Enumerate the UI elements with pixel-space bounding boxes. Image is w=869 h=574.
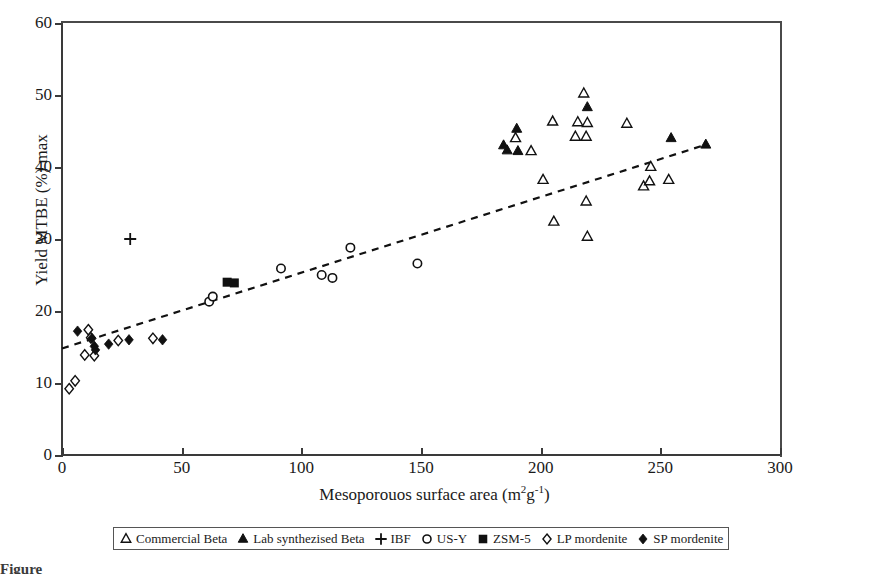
legend-item-us-y[interactable]: US-Y bbox=[420, 532, 467, 546]
data-point bbox=[346, 243, 354, 251]
legend-label: SP mordenite bbox=[653, 532, 723, 545]
y-tick-40 bbox=[55, 167, 62, 169]
y-axis-title: Yield MTBE (%) max bbox=[32, 80, 52, 340]
data-point bbox=[328, 274, 336, 282]
y-tick-0 bbox=[55, 455, 62, 457]
x-axis-title-exp-mass: -1 bbox=[535, 483, 544, 495]
data-point bbox=[413, 259, 421, 267]
data-point bbox=[80, 350, 89, 360]
data-point bbox=[622, 118, 632, 127]
y-tick-50 bbox=[55, 95, 62, 97]
legend-label: ZSM-5 bbox=[493, 532, 531, 545]
x-axis-title: Mesoporouos surface area (m2g-1) bbox=[0, 483, 869, 505]
data-point bbox=[149, 333, 158, 343]
data-point bbox=[582, 118, 592, 127]
data-point bbox=[549, 216, 559, 225]
x-axis-title-mid: g bbox=[526, 485, 535, 504]
data-markers-layer bbox=[62, 23, 780, 455]
data-point bbox=[570, 131, 580, 140]
plot-right-border bbox=[780, 21, 782, 457]
data-point bbox=[158, 335, 167, 345]
y-tick-60 bbox=[55, 23, 62, 25]
x-tick-label-150: 150 bbox=[396, 459, 446, 476]
data-point bbox=[666, 133, 676, 142]
x-axis-title-main: Mesoporouos surface area (m bbox=[319, 485, 521, 504]
plot-area bbox=[62, 23, 780, 455]
legend-label: IBF bbox=[391, 532, 411, 545]
data-point bbox=[582, 102, 592, 111]
legend-label: US-Y bbox=[437, 532, 467, 545]
data-point bbox=[71, 376, 80, 386]
x-tick-label-250: 250 bbox=[635, 459, 685, 476]
legend-marker-open-circle-icon bbox=[420, 532, 434, 546]
legend-marker-filled-diamond-icon bbox=[636, 532, 650, 546]
legend-item-ibf[interactable]: IBF bbox=[374, 532, 411, 546]
series-zsm-5 bbox=[223, 278, 239, 288]
data-point bbox=[645, 176, 655, 185]
data-point bbox=[511, 133, 521, 142]
data-point bbox=[230, 278, 239, 287]
y-tick-label-60: 60 bbox=[14, 14, 52, 31]
data-point bbox=[581, 131, 591, 140]
series-ibf bbox=[124, 233, 136, 245]
data-point bbox=[125, 335, 134, 345]
x-axis-title-end: ) bbox=[544, 485, 550, 504]
data-point bbox=[73, 326, 82, 336]
x-tick-label-100: 100 bbox=[276, 459, 326, 476]
data-point bbox=[526, 146, 536, 155]
legend-item-lab-synthezised-beta[interactable]: Lab synthezised Beta bbox=[236, 532, 364, 546]
figure-caption: Figure bbox=[0, 561, 869, 574]
data-point bbox=[701, 139, 711, 148]
data-point bbox=[65, 384, 74, 394]
y-tick-label-10: 10 bbox=[14, 374, 52, 391]
y-tick-10 bbox=[55, 383, 62, 385]
legend-label: LP mordenite bbox=[557, 532, 628, 545]
x-tick-label-0: 0 bbox=[37, 459, 87, 476]
y-tick-20 bbox=[55, 311, 62, 313]
data-point bbox=[573, 117, 583, 126]
legend-marker-filled-square-icon bbox=[476, 532, 490, 546]
legend-item-lp-mordenite[interactable]: LP mordenite bbox=[540, 532, 628, 546]
data-point bbox=[209, 292, 217, 300]
data-point bbox=[538, 174, 548, 183]
data-point bbox=[582, 231, 592, 240]
legend-label: Commercial Beta bbox=[136, 532, 227, 545]
data-point bbox=[124, 233, 136, 245]
x-tick-label-50: 50 bbox=[157, 459, 207, 476]
trend-line bbox=[62, 144, 708, 348]
data-point bbox=[579, 88, 589, 97]
data-point bbox=[548, 116, 558, 125]
x-tick-300 bbox=[780, 448, 782, 455]
x-tick-label-300: 300 bbox=[755, 459, 805, 476]
legend-item-commercial-beta[interactable]: Commercial Beta bbox=[119, 532, 227, 546]
legend-item-zsm-5[interactable]: ZSM-5 bbox=[476, 532, 531, 546]
series-us-y bbox=[205, 243, 422, 305]
data-point bbox=[317, 271, 325, 279]
legend-marker-open-triangle-icon bbox=[119, 532, 133, 546]
x-tick-label-200: 200 bbox=[516, 459, 566, 476]
data-point bbox=[104, 339, 113, 349]
legend-marker-open-diamond-icon bbox=[540, 532, 554, 546]
legend-marker-plus-icon bbox=[374, 532, 388, 546]
legend-item-sp-mordenite[interactable]: SP mordenite bbox=[636, 532, 723, 546]
legend-marker-filled-triangle-icon bbox=[236, 532, 250, 546]
scatter-plot-figure: 0102030405060 050100150200250300 Yield M… bbox=[0, 0, 869, 574]
data-point bbox=[513, 146, 523, 155]
data-point bbox=[114, 335, 123, 345]
chart-legend: Commercial BetaLab synthezised BetaIBFUS… bbox=[113, 527, 729, 550]
data-point bbox=[512, 123, 522, 132]
y-tick-30 bbox=[55, 239, 62, 241]
legend-label: Lab synthezised Beta bbox=[253, 532, 364, 545]
data-point bbox=[581, 196, 591, 205]
data-point bbox=[277, 264, 285, 272]
data-point bbox=[664, 174, 674, 183]
